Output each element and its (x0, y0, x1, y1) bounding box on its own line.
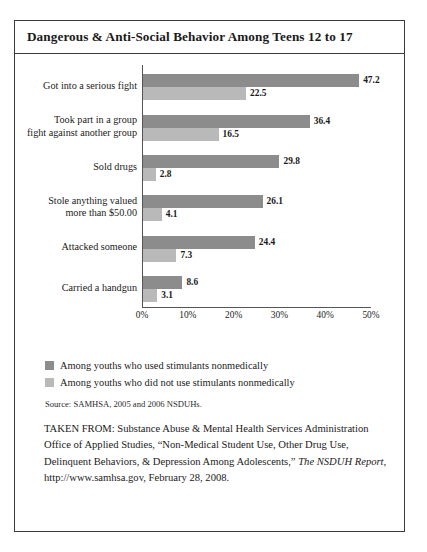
legend-item: Among youths who did not use stimulants … (45, 376, 385, 391)
category-label-line: Sold drugs (93, 161, 137, 173)
bar-dark (143, 236, 255, 249)
bar-group: 26.14.1 (143, 195, 371, 221)
category-label-line: Took part in a group (27, 114, 137, 126)
x-axis-tick-label: 30% (271, 310, 288, 320)
footer-citation: TAKEN FROM: Substance Abuse & Mental Hea… (44, 421, 390, 487)
y-axis-line (142, 65, 143, 307)
source-note: Source: SAMHSA, 2005 and 2006 NSDUHs. (45, 399, 202, 409)
category-label-line: Got into a serious fight (43, 80, 137, 92)
legend-label: Among youths who did not use stimulants … (60, 376, 295, 390)
bar-group: 36.416.5 (143, 115, 371, 141)
bar-value-label: 4.1 (162, 208, 178, 221)
category-label: Got into a serious fight (43, 80, 137, 92)
category-label: Took part in a groupfight against anothe… (27, 114, 137, 139)
bar-light (143, 128, 219, 141)
category-labels: Got into a serious fightTook part in a g… (15, 65, 137, 307)
bar-dark (143, 155, 279, 168)
bar-light (143, 249, 176, 262)
category-label-line: Carried a handgun (62, 282, 137, 294)
bar-value-label: 7.3 (176, 249, 192, 262)
bar-dark (143, 195, 263, 208)
bar-group: 47.222.5 (143, 74, 371, 100)
bar-value-label: 22.5 (246, 87, 266, 100)
bar-light (143, 289, 157, 302)
category-label: Carried a handgun (62, 282, 137, 294)
category-label-line: Attacked someone (61, 241, 137, 253)
bar-value-label: 8.6 (182, 276, 198, 289)
bar-light (143, 168, 156, 181)
chart-legend: Among youths who used stimulants nonmedi… (45, 359, 385, 393)
bar-value-label: 47.2 (359, 74, 379, 87)
x-axis-tick-label: 50% (362, 310, 379, 320)
x-axis-tick-label: 0% (136, 310, 149, 320)
category-label-line: Stole anything valued (48, 195, 137, 207)
bar-value-label: 24.4 (255, 236, 275, 249)
category-label-line: more than $50.00 (48, 207, 137, 219)
bar-chart: Got into a serious fightTook part in a g… (15, 55, 406, 345)
category-label: Attacked someone (61, 241, 137, 253)
x-axis-line (142, 307, 371, 308)
bar-group: 29.82.8 (143, 155, 371, 181)
category-label: Sold drugs (93, 161, 137, 173)
bar-dark (143, 74, 359, 87)
bar-value-label: 3.1 (157, 289, 173, 302)
category-label: Stole anything valuedmore than $50.00 (48, 195, 137, 220)
x-axis-tick-label: 10% (179, 310, 196, 320)
legend-swatch (45, 378, 54, 387)
bar-dark (143, 115, 310, 128)
category-label-line: fight against another group (27, 127, 137, 139)
x-axis-tick-label: 40% (317, 310, 334, 320)
x-axis-tick-label: 20% (225, 310, 242, 320)
bar-value-label: 26.1 (263, 195, 283, 208)
bar-group: 8.63.1 (143, 276, 371, 302)
bar-value-label: 2.8 (156, 168, 172, 181)
legend-swatch (45, 361, 54, 370)
legend-label: Among youths who used stimulants nonmedi… (60, 359, 268, 373)
bar-group: 24.47.3 (143, 236, 371, 262)
legend-item: Among youths who used stimulants nonmedi… (45, 359, 385, 374)
figure-panel: Dangerous & Anti-Social Behavior Among T… (14, 20, 405, 532)
plot-area: 47.222.536.416.529.82.826.14.124.47.38.6… (142, 65, 371, 307)
bar-dark (143, 276, 182, 289)
bar-light (143, 208, 162, 221)
bar-value-label: 16.5 (219, 128, 239, 141)
page-title: Dangerous & Anti-Social Behavior Among T… (27, 29, 394, 45)
bar-value-label: 36.4 (310, 115, 330, 128)
footer-report-title: The NSDUH Report (298, 456, 383, 467)
title-divider (15, 53, 404, 54)
bar-value-label: 29.8 (279, 155, 299, 168)
bar-light (143, 87, 246, 100)
